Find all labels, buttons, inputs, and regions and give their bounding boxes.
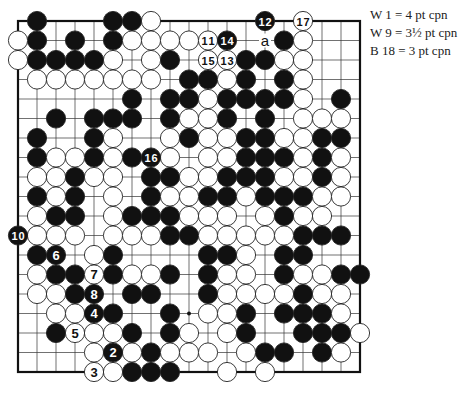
white-stone	[236, 343, 255, 362]
black-stone	[293, 323, 312, 342]
white-stone	[293, 206, 312, 225]
white-stone	[27, 70, 46, 89]
black-stone	[160, 50, 179, 69]
black-stone	[46, 109, 65, 128]
black-stone	[255, 148, 274, 167]
white-stone	[65, 304, 84, 323]
black-stone	[293, 187, 312, 206]
white-stone	[179, 31, 198, 50]
white-stone	[179, 323, 198, 342]
white-stone	[198, 304, 217, 323]
white-stone	[46, 187, 65, 206]
black-stone	[46, 50, 65, 69]
black-stone	[198, 187, 217, 206]
black-stone	[236, 304, 255, 323]
black-stone	[255, 343, 274, 362]
black-stone	[350, 265, 369, 284]
white-stone	[27, 226, 46, 245]
black-stone	[255, 128, 274, 147]
white-stone	[331, 109, 350, 128]
white-stone	[236, 245, 255, 264]
white-stone	[217, 128, 236, 147]
black-stone	[274, 187, 293, 206]
white-stone	[27, 206, 46, 225]
black-stone	[122, 284, 141, 303]
black-stone	[331, 226, 350, 245]
black-stone	[274, 304, 293, 323]
go-board: 23456781011121314151617a	[0, 0, 380, 394]
white-stone	[331, 187, 350, 206]
black-stone	[103, 31, 122, 50]
black-stone	[141, 343, 160, 362]
black-stone	[122, 323, 141, 342]
white-stone	[8, 50, 27, 69]
white-stone	[122, 31, 141, 50]
white-stone	[179, 167, 198, 186]
black-stone	[65, 31, 84, 50]
white-stone	[312, 265, 331, 284]
black-stone	[65, 50, 84, 69]
white-stone	[179, 109, 198, 128]
white-stone	[160, 343, 179, 362]
white-stone	[236, 187, 255, 206]
black-stone	[160, 109, 179, 128]
white-stone	[217, 226, 236, 245]
white-stone	[141, 11, 160, 30]
black-stone	[236, 128, 255, 147]
white-stone	[255, 226, 274, 245]
white-stone	[65, 148, 84, 167]
black-stone	[46, 323, 65, 342]
white-stone	[122, 343, 141, 362]
black-stone	[65, 167, 84, 186]
black-stone	[65, 265, 84, 284]
move-number: 2	[109, 345, 116, 360]
move-number: 8	[90, 287, 97, 302]
white-stone	[198, 148, 217, 167]
black-stone	[141, 187, 160, 206]
black-stone	[160, 323, 179, 342]
move-number: 16	[145, 152, 158, 164]
black-stone	[274, 245, 293, 264]
white-stone	[84, 245, 103, 264]
white-stone	[46, 304, 65, 323]
white-stone	[236, 284, 255, 303]
legend-line-w1: W 1 = 4 pt cpn	[370, 6, 457, 24]
black-stone	[160, 265, 179, 284]
black-stone	[160, 89, 179, 108]
white-stone	[350, 323, 369, 342]
move-number: 17	[297, 16, 310, 28]
black-stone	[65, 284, 84, 303]
white-stone	[198, 89, 217, 108]
white-stone	[312, 187, 331, 206]
black-stone	[27, 31, 46, 50]
white-stone	[46, 167, 65, 186]
white-stone	[122, 70, 141, 89]
black-stone	[122, 206, 141, 225]
white-stone	[122, 265, 141, 284]
white-stone	[198, 128, 217, 147]
black-stone	[274, 265, 293, 284]
white-stone	[217, 323, 236, 342]
black-stone	[312, 304, 331, 323]
black-stone	[236, 70, 255, 89]
black-stone	[217, 109, 236, 128]
white-stone	[122, 226, 141, 245]
black-stone	[236, 89, 255, 108]
black-stone	[217, 89, 236, 108]
black-stone	[179, 89, 198, 108]
black-stone	[84, 148, 103, 167]
black-stone	[236, 167, 255, 186]
move-number: 11	[202, 35, 215, 47]
black-stone	[160, 206, 179, 225]
white-stone	[141, 265, 160, 284]
white-stone	[103, 323, 122, 342]
white-stone	[103, 148, 122, 167]
white-stone	[27, 265, 46, 284]
black-stone	[255, 109, 274, 128]
black-stone	[312, 323, 331, 342]
black-stone	[84, 50, 103, 69]
white-stone	[103, 70, 122, 89]
white-stone	[84, 323, 103, 342]
white-stone	[46, 70, 65, 89]
white-stone	[293, 148, 312, 167]
